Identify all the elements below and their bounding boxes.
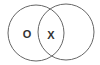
venn-diagram: O X: [0, 0, 100, 65]
intersection-label: X: [47, 29, 55, 41]
left-only-label: O: [23, 28, 32, 40]
left-circle: [8, 5, 64, 61]
